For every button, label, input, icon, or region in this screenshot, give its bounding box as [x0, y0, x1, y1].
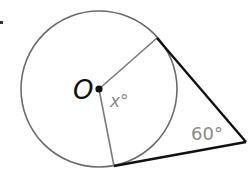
- central-angle-label: x°: [109, 91, 129, 111]
- radius-top: [99, 38, 157, 89]
- tangent-bottom: [114, 142, 246, 166]
- center-point: [95, 85, 102, 92]
- geometry-diagram: O x° 60°: [0, 0, 252, 178]
- center-label: O: [73, 75, 93, 105]
- list-marker: [0, 21, 3, 24]
- external-angle-label: 60°: [191, 123, 223, 144]
